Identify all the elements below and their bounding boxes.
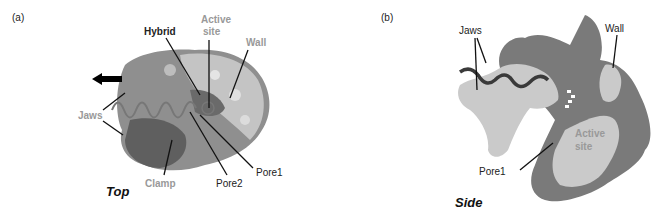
panel-b-tag: (b) — [381, 12, 393, 23]
label-pore1: Pore1 — [256, 167, 283, 178]
label-jaws-b: Jaws — [459, 25, 482, 36]
label-clamp: Clamp — [145, 178, 176, 189]
label-active-b: Active — [575, 128, 605, 139]
view-label-top: Top — [106, 186, 129, 197]
label-jaws: Jaws — [78, 110, 102, 121]
panel-a-structure — [92, 50, 270, 171]
label-pore1-b: Pore1 — [479, 166, 506, 177]
view-label-side: Side — [455, 197, 482, 208]
label-pore2: Pore2 — [216, 178, 243, 189]
label-site-b: site — [575, 141, 592, 152]
label-wall: Wall — [246, 37, 266, 48]
panel-a-tag: (a) — [12, 12, 24, 23]
label-site: site — [203, 26, 220, 37]
label-hybrid: Hybrid — [144, 26, 176, 37]
label-active: Active — [201, 14, 231, 25]
label-wall-b: Wall — [605, 23, 624, 34]
